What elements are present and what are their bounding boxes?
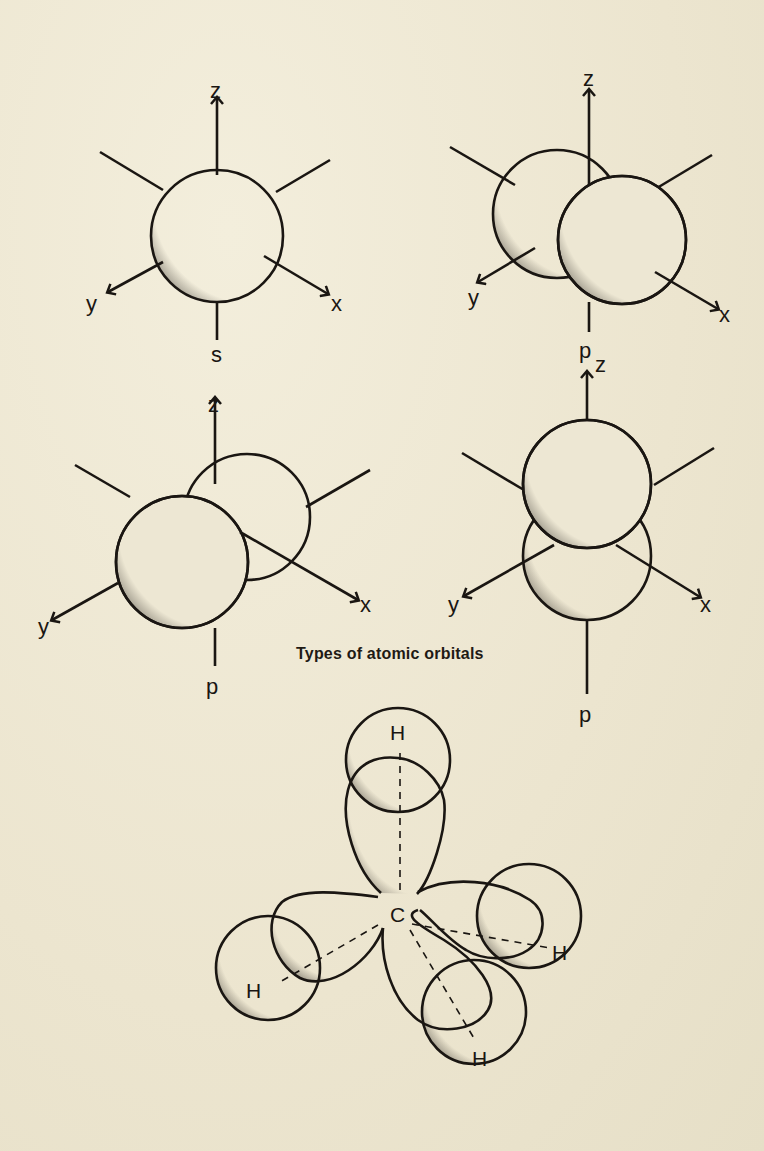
h-atom-label-right: H xyxy=(552,941,567,964)
pz-orbital-label: p xyxy=(579,702,591,727)
c-atom-label: C xyxy=(390,903,405,926)
s-x-label: x xyxy=(331,291,342,316)
py-z-label: z xyxy=(208,392,219,417)
px-x-label: x xyxy=(719,302,730,327)
h-atom-label-top: H xyxy=(390,721,405,744)
p-orbital-y-figure xyxy=(52,398,370,666)
s-z-label: z xyxy=(210,78,221,103)
s-orbital-label: s xyxy=(211,342,222,367)
s-orbital-figure xyxy=(100,98,330,340)
py-orbital-label: p xyxy=(206,674,218,699)
s-y-label: y xyxy=(86,291,97,316)
pz-z-label: z xyxy=(595,352,606,377)
h-atom-label-left: H xyxy=(246,979,261,1002)
px-z-label: z xyxy=(583,66,594,91)
orbital-diagram: z y x s z y x p z y x p z y x p H C H H … xyxy=(0,0,764,1151)
py-y-label: y xyxy=(38,614,49,639)
h-atom-label-bottom: H xyxy=(472,1047,487,1070)
pz-y-label: y xyxy=(448,592,459,617)
px-y-label: y xyxy=(468,285,479,310)
figure-caption: Types of atomic orbitals xyxy=(296,645,484,663)
p-orbital-z-figure xyxy=(462,372,714,694)
py-x-label: x xyxy=(360,592,371,617)
px-orbital-label: p xyxy=(579,338,591,363)
pz-x-label: x xyxy=(700,592,711,617)
methane-figure xyxy=(216,708,581,1064)
p-orbital-x-figure xyxy=(450,90,718,332)
